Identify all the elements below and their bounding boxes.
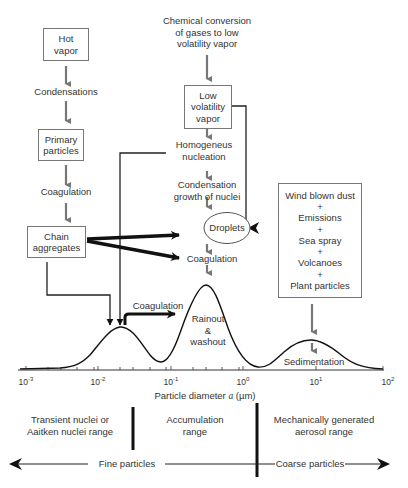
source-plus-2: + <box>317 224 323 235</box>
source-volcanoes: Volcanoes <box>298 257 342 268</box>
primary-particles-box: Primary particles <box>38 129 84 161</box>
chemical-conversion-line-3: volatility vapor <box>157 38 257 50</box>
chemical-conversion-label: Chemical conversion of gases to low vola… <box>157 15 257 50</box>
source-plus-1: + <box>317 201 323 212</box>
source-plus-3: + <box>317 246 323 257</box>
low-volatility-line-2: volatility <box>191 101 225 113</box>
ampersand-line: & <box>186 325 230 337</box>
homogeneus-nucleation-line-2: nucleation <box>167 151 241 163</box>
hot-vapor-box: Hot vapor <box>43 28 89 61</box>
source-sea-spray: Sea spray <box>299 235 342 246</box>
x-axis-title: Particle diameter a (µm) <box>130 390 280 403</box>
primary-particles-line-1: Primary <box>45 134 78 146</box>
coagulation-bracket-arrow <box>125 314 175 325</box>
source-plus-4: + <box>317 269 323 280</box>
aggregates-to-droplets-arrow <box>87 235 179 239</box>
primary-particles-line-2: particles <box>43 145 78 157</box>
accumulation-range-label: Accumulation range <box>160 414 230 437</box>
tick-label-1e-3: 10-3 <box>19 376 34 387</box>
condensation-growth-label: Condensation growth of nuclei <box>167 179 247 202</box>
low-volatility-line-1: Low <box>199 90 216 102</box>
source-emissions: Emissions <box>298 212 341 223</box>
homogeneus-nucleation-label: Homogeneus nucleation <box>167 139 241 162</box>
rainout-washout-label: Rainout & washout <box>186 313 230 348</box>
hot-vapor-line-2: vapor <box>54 45 78 57</box>
washout-line: washout <box>186 336 230 348</box>
coagulation-bracket-label: Coagulation <box>128 300 188 312</box>
sedimentation-label: Sedimentation <box>280 356 348 368</box>
chain-aggregates-box: Chain aggregates <box>27 226 86 258</box>
condensation-growth-line-2: growth of nuclei <box>167 191 247 203</box>
chain-aggregates-line-2: aggregates <box>33 242 81 254</box>
fine-particles-label: Fine particles <box>90 458 164 470</box>
tick-label-1e-2: 10-2 <box>91 376 106 387</box>
condensation-growth-line-1: Condensation <box>167 179 247 191</box>
droplets-label: Droplets <box>204 222 250 234</box>
coarse-particles-label: Coarse particles <box>275 458 345 470</box>
tick-label-1e-1: 10-1 <box>164 376 179 387</box>
natural-sources-box: Wind blown dust + Emissions + Sea spray … <box>278 183 362 298</box>
chemical-conversion-line-1: Chemical conversion <box>157 15 257 27</box>
homogeneus-nucleation-line-1: Homogeneus <box>167 139 241 151</box>
rainout-line: Rainout <box>186 313 230 325</box>
source-wind-blown-dust: Wind blown dust <box>285 190 355 201</box>
transient-nuclei-range-label: Transient nuclei or Aaitken nuclei range <box>20 414 120 437</box>
coagulation-left-label: Coagulation <box>30 186 102 198</box>
tick-label-1e0: 100 <box>237 376 250 387</box>
mechanical-range-label: Mechanically generated aerosol range <box>268 414 380 437</box>
low-volatility-vapor-box: Low volatility vapor <box>184 85 232 129</box>
condensations-label: Condensations <box>30 86 102 98</box>
source-plant-particles: Plant particles <box>290 280 350 291</box>
low-volatility-line-3: vapor <box>196 113 220 125</box>
hot-vapor-line-1: Hot <box>59 33 74 45</box>
tick-label-1e1: 101 <box>310 376 323 387</box>
tick-label-1e2: 102 <box>382 376 395 387</box>
lowvol-to-droplets-connector <box>232 106 253 228</box>
coagulation-middle-label: Coagulation <box>180 253 244 265</box>
chain-aggregates-line-1: Chain <box>44 231 69 243</box>
aggregates-to-coagulation-arrow <box>87 241 179 258</box>
chemical-conversion-line-2: of gases to low <box>157 27 257 39</box>
aggregates-to-fine-mode <box>47 262 110 325</box>
